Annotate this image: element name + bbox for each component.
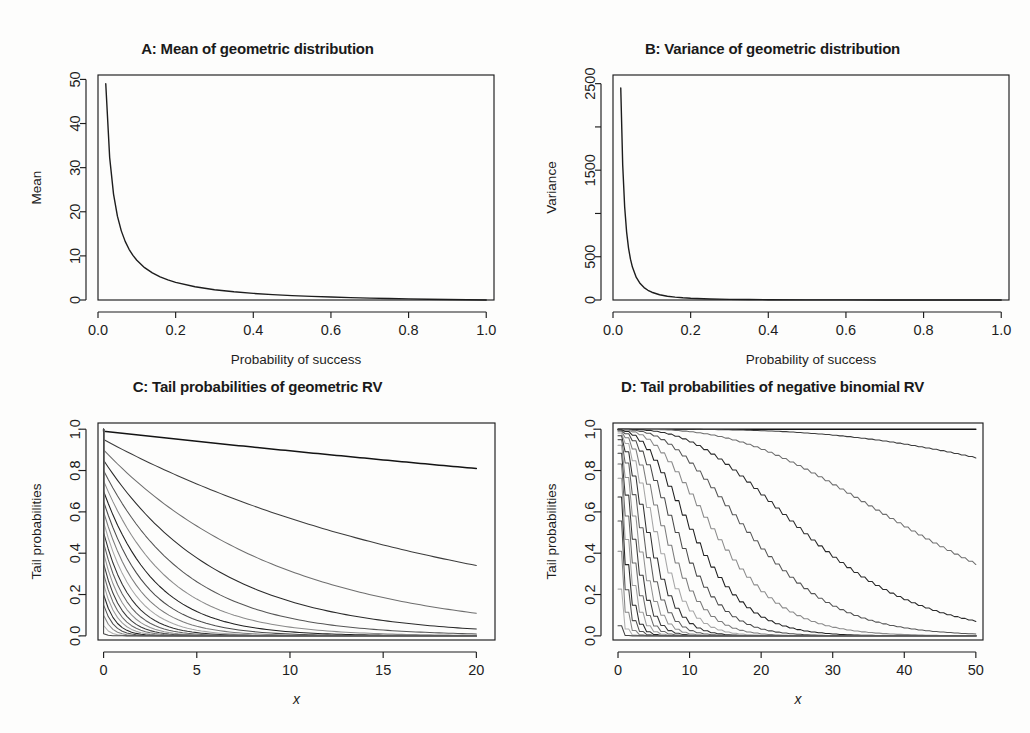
data-curve — [104, 429, 477, 468]
panel-c-plot: 051015200.00.20.40.60.81.0xTail probabil… — [0, 372, 515, 730]
y-tick-label: 0.8 — [582, 460, 598, 480]
x-tick-label: 40 — [896, 662, 912, 678]
x-tick-label: 30 — [825, 662, 841, 678]
y-axis-label: Tail probabilities — [544, 483, 559, 579]
y-axis-label: Variance — [544, 161, 559, 213]
y-tick-label: 40 — [67, 115, 83, 131]
data-curve — [618, 551, 976, 636]
y-tick-label: 0.0 — [582, 626, 598, 646]
data-curve — [618, 429, 976, 634]
y-tick-label: 0.0 — [67, 626, 83, 646]
y-tick-label: 1.0 — [582, 419, 598, 439]
data-curve — [618, 453, 976, 636]
x-tick-label: 10 — [682, 662, 698, 678]
x-tick-label: 0.0 — [603, 322, 623, 338]
y-axis-label: Mean — [29, 171, 44, 205]
panel-a: A: Mean of geometric distribution 0.00.2… — [0, 34, 515, 370]
data-curve — [618, 429, 976, 621]
y-tick-label: 0.6 — [582, 502, 598, 522]
x-tick-label: 0.4 — [243, 322, 263, 338]
y-tick-label: 500 — [582, 245, 598, 269]
x-tick-label: 0 — [614, 662, 622, 678]
panel-d-title: D: Tail probabilities of negative binomi… — [515, 378, 1030, 395]
x-axis-c: 05101520 — [100, 652, 485, 678]
x-tick-label: 20 — [753, 662, 769, 678]
y-tick-label: 30 — [67, 160, 83, 176]
data-curve — [618, 464, 976, 636]
y-axis-b: 050015002500 — [582, 68, 601, 305]
data-curve — [618, 445, 976, 636]
x-axis-a: 0.00.20.40.60.81.0 — [88, 312, 496, 338]
data-curve — [618, 429, 976, 635]
y-tick-label: 1500 — [582, 154, 598, 186]
y-tick-label: 0.4 — [582, 543, 598, 563]
y-tick-label: 20 — [67, 204, 83, 220]
x-tick-label: 0.8 — [914, 322, 934, 338]
y-tick-label: 2500 — [582, 68, 598, 100]
x-tick-label: 0.2 — [681, 322, 701, 338]
data-curve — [104, 429, 477, 565]
x-tick-label: 0.2 — [166, 322, 186, 338]
y-tick-label: 0.2 — [67, 584, 83, 604]
y-axis-d: 0.00.20.40.60.81.0 — [582, 419, 601, 646]
data-curve — [618, 430, 976, 636]
data-curve — [618, 440, 976, 636]
panel-b: B: Variance of geometric distribution 0.… — [515, 34, 1030, 370]
x-tick-label: 0 — [100, 662, 108, 678]
x-tick-label: 0.6 — [321, 322, 341, 338]
data-curve — [618, 478, 976, 636]
x-tick-label: 10 — [282, 662, 298, 678]
x-tick-label: 15 — [375, 662, 391, 678]
x-tick-label: 50 — [968, 662, 984, 678]
y-tick-label: 0 — [67, 296, 83, 304]
data-curve — [621, 88, 1001, 300]
data-curve — [618, 521, 976, 636]
x-axis-label: Probability of success — [746, 352, 877, 367]
x-axis-label: x — [292, 691, 301, 707]
panel-a-title: A: Mean of geometric distribution — [0, 40, 515, 57]
data-curve — [618, 429, 976, 564]
x-tick-label: 5 — [193, 662, 201, 678]
x-tick-label: 0.0 — [88, 322, 108, 338]
x-axis-label: Probability of success — [231, 352, 362, 367]
data-curve — [104, 429, 477, 634]
x-axis-label: x — [794, 691, 803, 707]
y-axis-c: 0.00.20.40.60.81.0 — [67, 419, 86, 646]
curves-a — [106, 84, 486, 300]
y-tick-label: 0.6 — [67, 502, 83, 522]
y-tick-label: 10 — [67, 248, 83, 264]
x-axis-b: 0.00.20.40.60.81.0 — [603, 312, 1011, 338]
y-tick-label: 0.2 — [582, 584, 598, 604]
x-tick-label: 1.0 — [991, 322, 1011, 338]
panel-b-title: B: Variance of geometric distribution — [515, 40, 1030, 57]
data-curve — [618, 429, 976, 458]
y-axis-label: Tail probabilities — [29, 483, 44, 579]
y-tick-label: 50 — [67, 71, 83, 87]
panel-c: C: Tail probabilities of geometric RV 05… — [0, 372, 515, 730]
x-tick-label: 0.8 — [399, 322, 419, 338]
y-tick-label: 0 — [582, 296, 598, 304]
x-tick-label: 0.6 — [836, 322, 856, 338]
y-tick-label: 0.8 — [67, 460, 83, 480]
figure-canvas: A: Mean of geometric distribution 0.00.2… — [0, 0, 1030, 733]
x-tick-label: 1.0 — [476, 322, 496, 338]
y-tick-label: 1.0 — [67, 419, 83, 439]
y-tick-label: 0.4 — [67, 543, 83, 563]
data-curve — [106, 84, 486, 300]
x-tick-label: 20 — [468, 662, 484, 678]
curves-d — [618, 429, 976, 636]
y-axis-a: 01020304050 — [67, 71, 86, 304]
x-axis-d: 01020304050 — [614, 652, 984, 678]
panel-c-title: C: Tail probabilities of geometric RV — [0, 378, 515, 395]
panel-a-plot: 0.00.20.40.60.81.001020304050Probability… — [0, 34, 515, 370]
curves-c — [104, 429, 477, 636]
panel-d-plot: 010203040500.00.20.40.60.81.0xTail proba… — [515, 372, 1030, 730]
x-tick-label: 0.4 — [758, 322, 778, 338]
curves-b — [621, 88, 1001, 300]
panel-b-plot: 0.00.20.40.60.81.0050015002500Probabilit… — [515, 34, 1030, 370]
panel-d: D: Tail probabilities of negative binomi… — [515, 372, 1030, 730]
